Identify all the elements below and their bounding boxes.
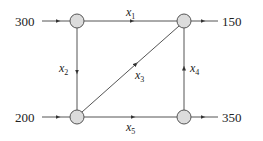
inflow-value-label: 300 <box>15 14 35 29</box>
edge-label: x1 <box>125 5 135 21</box>
network-flow-diagram: 300 200 150 350 x1 x2 x3 <box>0 0 263 141</box>
edge-x2: x2 <box>58 28 77 110</box>
edge-line <box>136 26 179 64</box>
edge-label: x5 <box>125 120 135 136</box>
inflow-value-label: 200 <box>15 110 35 125</box>
inflow-200: 200 <box>15 110 70 125</box>
edge-label: x4 <box>189 61 199 77</box>
inflow-300: 300 <box>15 14 70 29</box>
node-bottom-right <box>177 110 191 124</box>
outflow-350: 350 <box>191 110 242 125</box>
outflow-value-label: 150 <box>222 14 242 29</box>
edge-label: x2 <box>58 61 68 77</box>
edge-x3: x3 <box>82 26 179 112</box>
node-bottom-left <box>70 110 84 124</box>
edge-x4: x4 <box>184 28 199 110</box>
node-top-left <box>70 14 84 28</box>
edge-x5: x5 <box>84 117 177 136</box>
edge-x1: x1 <box>84 5 177 21</box>
arrow-icon <box>82 64 136 112</box>
outflow-value-label: 350 <box>222 110 242 125</box>
node-top-right <box>177 14 191 28</box>
outflow-150: 150 <box>191 14 242 29</box>
edge-label: x3 <box>134 68 144 84</box>
